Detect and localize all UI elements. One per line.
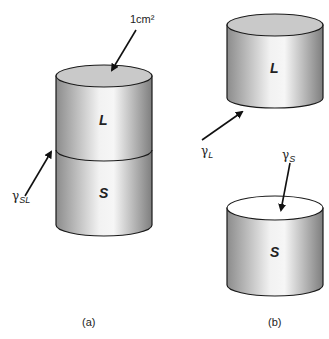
cylinder-stack-a [56, 65, 152, 236]
gamma-sl-label: γSL [12, 189, 30, 205]
phase-label-s-b: S [270, 244, 279, 260]
diagram-canvas [0, 0, 329, 339]
phase-label-s-a: S [99, 185, 108, 201]
gamma-l-label: γL [201, 144, 213, 160]
phase-label-l-b: L [270, 60, 279, 76]
caption-a: (a) [82, 316, 95, 328]
gamma-s-label: γS [282, 148, 295, 164]
phase-label-l-a: L [99, 112, 108, 128]
gamma-l-arrow [202, 112, 242, 140]
area-arrow [112, 30, 136, 70]
area-label: 1cm² [130, 13, 154, 25]
top-face-a [56, 65, 152, 87]
caption-b: (b) [268, 316, 281, 328]
